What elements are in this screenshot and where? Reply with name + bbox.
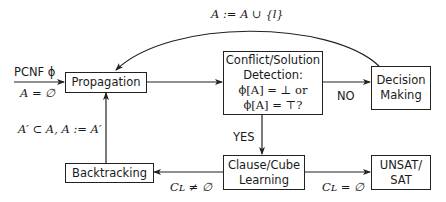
node-decision-line-2: Making [380, 88, 421, 103]
label-learn-nonempty: Cʟ ≠ ∅ [170, 180, 212, 194]
label-decision-loop: A := A ∪ {l} [211, 7, 284, 21]
node-result-line-1: UNSAT/ [380, 158, 422, 173]
node-backtracking: Backtracking [65, 163, 154, 183]
label-input-bottom: A = ∅ [20, 86, 55, 100]
node-learning-line-2: Learning [239, 173, 289, 188]
node-detection-line-4: ϕ[A] = ⊤? [243, 98, 302, 113]
label-learn-empty: Cʟ = ∅ [322, 180, 364, 194]
node-decision-line-1: Decision [377, 73, 426, 88]
node-detection-line-3: ϕ[A] = ⊥ or [239, 83, 308, 98]
node-detection: Conflict/Solution Detection: ϕ[A] = ⊥ or… [223, 51, 323, 115]
node-decision: Decision Making [371, 66, 431, 110]
label-no: NO [337, 89, 355, 103]
node-learning: Clause/Cube Learning [223, 155, 305, 190]
node-detection-line-1: Conflict/Solution [226, 53, 320, 68]
node-detection-line-2: Detection: [243, 68, 303, 83]
label-backtrack-update: A′ ⊂ A, A := A′ [18, 122, 102, 136]
label-yes: YES [233, 130, 255, 144]
node-backtracking-label: Backtracking [72, 166, 147, 181]
node-result: UNSAT/ SAT [371, 155, 431, 190]
node-propagation-label: Propagation [72, 75, 141, 90]
node-propagation: Propagation [65, 72, 147, 93]
node-result-line-2: SAT [390, 173, 412, 188]
label-input-top: PCNF ϕ [14, 65, 55, 79]
node-learning-line-1: Clause/Cube [228, 158, 300, 173]
